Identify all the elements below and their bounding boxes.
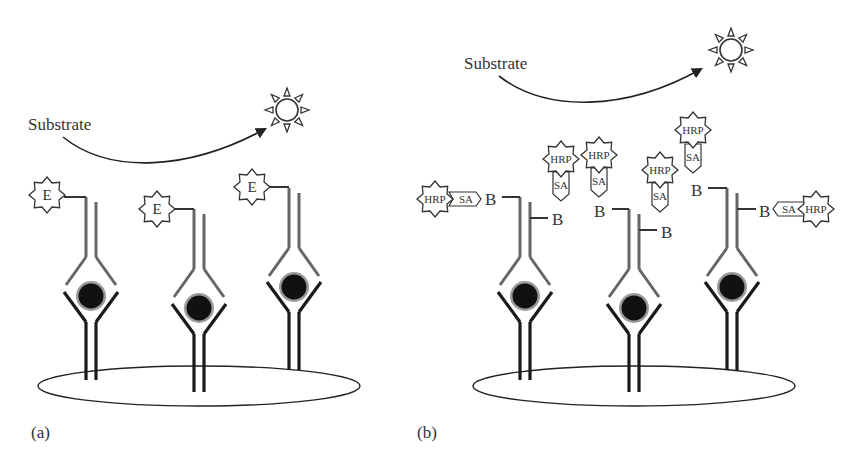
biotin-label: B	[691, 181, 702, 200]
svg-text:SA: SA	[554, 179, 568, 191]
biotin-label: B	[594, 202, 605, 221]
free-conjugate-3: SA HRP	[642, 152, 678, 212]
substrate-label-a: Substrate	[28, 115, 91, 134]
svg-text:SA: SA	[686, 151, 700, 163]
panel-label-b: (b)	[417, 423, 437, 442]
panel-b: Substrate B B B B	[417, 28, 834, 442]
detection-antibody	[269, 188, 319, 276]
antigen	[619, 293, 649, 323]
panel-a: Substrate E E E	[28, 88, 360, 442]
sandwich-complex-a1: E	[29, 177, 118, 380]
svg-text:HRP: HRP	[424, 193, 445, 205]
immunoassay-diagram: Substrate E E E	[0, 0, 862, 466]
bound-conjugate-right: SA HRP	[773, 191, 834, 227]
detection-antibody	[174, 209, 224, 297]
svg-text:E: E	[42, 187, 51, 203]
reaction-arrow-a	[63, 129, 265, 163]
svg-text:HRP: HRP	[649, 164, 670, 176]
antigen	[510, 281, 540, 311]
sandwich-complex-a2: E	[139, 191, 226, 392]
svg-text:HRP: HRP	[550, 153, 571, 165]
svg-text:HRP: HRP	[805, 203, 826, 215]
antigen	[76, 281, 106, 311]
light-signal-icon-b	[709, 28, 753, 72]
biotin-label: B	[552, 210, 563, 229]
sandwich-complex-b2: B B	[594, 202, 672, 393]
svg-text:SA: SA	[782, 203, 796, 215]
antigen	[279, 272, 309, 302]
biotin-label: B	[485, 190, 496, 209]
free-conjugate-4: SA HRP	[675, 112, 711, 173]
reaction-arrow-b	[499, 69, 701, 102]
detection-antibody	[609, 209, 659, 297]
free-conjugate-1: SA HRP	[543, 141, 579, 201]
antigen	[184, 293, 214, 323]
biotin-label: B	[759, 202, 770, 221]
svg-text:SA: SA	[459, 193, 473, 205]
detection-antibody	[66, 197, 116, 285]
sandwich-complex-a3: E	[234, 169, 321, 370]
detection-antibody	[500, 197, 550, 285]
svg-text:E: E	[247, 179, 256, 195]
svg-text:SA: SA	[592, 175, 606, 187]
free-conjugate-2: SA HRP	[581, 137, 617, 197]
substrate-label-b: Substrate	[464, 54, 527, 73]
svg-text:SA: SA	[653, 190, 667, 202]
svg-text:HRP: HRP	[682, 124, 703, 136]
biotin-label: B	[661, 223, 672, 242]
antigen	[717, 272, 747, 302]
sandwich-complex-b1: B B	[485, 190, 563, 381]
svg-text:HRP: HRP	[588, 149, 609, 161]
sandwich-complex-b3: B B	[691, 181, 770, 371]
svg-text:E: E	[152, 201, 161, 217]
detection-antibody	[707, 188, 757, 276]
light-signal-icon-a	[265, 88, 309, 132]
bound-conjugate-left: SA HRP	[417, 181, 481, 217]
panel-label-a: (a)	[31, 423, 50, 442]
